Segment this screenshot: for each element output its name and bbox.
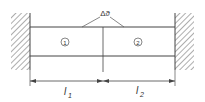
- length-label-1: l 1: [64, 86, 72, 99]
- segment-2-number: 2: [136, 40, 140, 46]
- dimension-lines: [30, 70, 175, 86]
- temperature-annotation: Δϑ: [82, 9, 124, 27]
- segment-1-marker: 1: [61, 38, 69, 46]
- bar: [30, 27, 175, 72]
- segment-1-number: 1: [63, 40, 67, 46]
- left-fixed-wall: [11, 13, 30, 70]
- svg-text:2: 2: [139, 91, 144, 98]
- segment-2-marker: 2: [134, 38, 142, 46]
- svg-text:l: l: [64, 86, 67, 97]
- svg-text:l: l: [136, 85, 139, 96]
- length-label-2: l 2: [136, 85, 144, 98]
- temperature-label: Δϑ: [100, 9, 110, 18]
- bar-diagram: Δϑ 1 2 l 1 l 2: [0, 0, 205, 102]
- right-fixed-wall: [175, 13, 194, 70]
- svg-text:1: 1: [68, 92, 72, 99]
